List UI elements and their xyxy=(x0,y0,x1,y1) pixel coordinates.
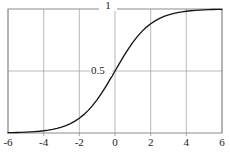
x-axis-tick-label: -4 xyxy=(32,136,56,148)
x-axis-tick-label: 2 xyxy=(139,136,163,148)
x-axis-tick-label: -6 xyxy=(0,136,20,148)
y-axis-tick-label-half: 0.5 xyxy=(90,64,112,76)
y-axis-tick-label-one: 1 xyxy=(99,0,117,11)
x-axis-tick-label: 6 xyxy=(210,136,230,148)
sigmoid-chart-figure: -6 -4 -2 0 2 4 6 0.5 1 xyxy=(0,0,230,166)
x-axis-tick-label: 4 xyxy=(174,136,198,148)
x-axis-tick-label: -2 xyxy=(67,136,91,148)
x-axis-tick-label: 0 xyxy=(103,136,127,148)
